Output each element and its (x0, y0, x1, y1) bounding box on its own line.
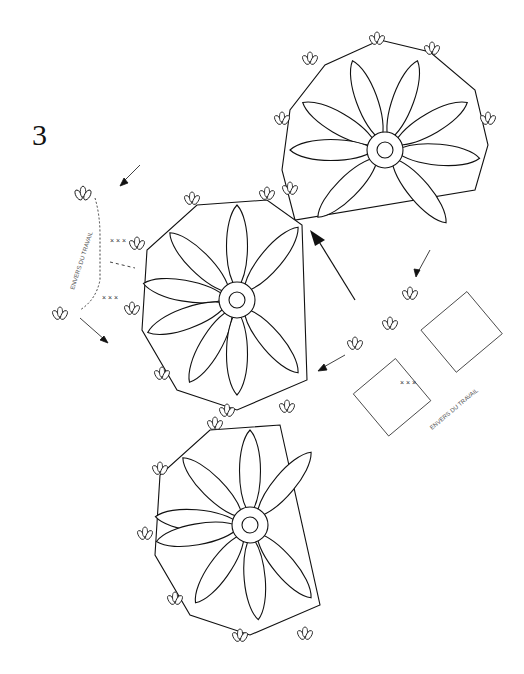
svg-text:× × ×: × × × (400, 379, 416, 386)
label-envers-right: ENVERS DU TRAVAIL (429, 387, 480, 431)
flower-middle (123, 187, 307, 418)
left-stitch-chart: × × × × × × ENVERS DU TRAVAIL (51, 165, 140, 343)
svg-text:× × ×: × × × (102, 294, 118, 301)
svg-text:× × ×: × × × (110, 237, 126, 244)
right-stitch-chart: × × × ENVERS DU TRAVAIL (318, 250, 502, 436)
flower-bottom (136, 417, 320, 643)
label-envers-left: ENVERS DU TRAVAIL (69, 230, 94, 290)
join-arrow (310, 230, 355, 300)
flower-top (273, 32, 496, 230)
crochet-diagram: × × × × × × ENVERS DU TRAVAIL × × × ENVE… (0, 0, 524, 674)
